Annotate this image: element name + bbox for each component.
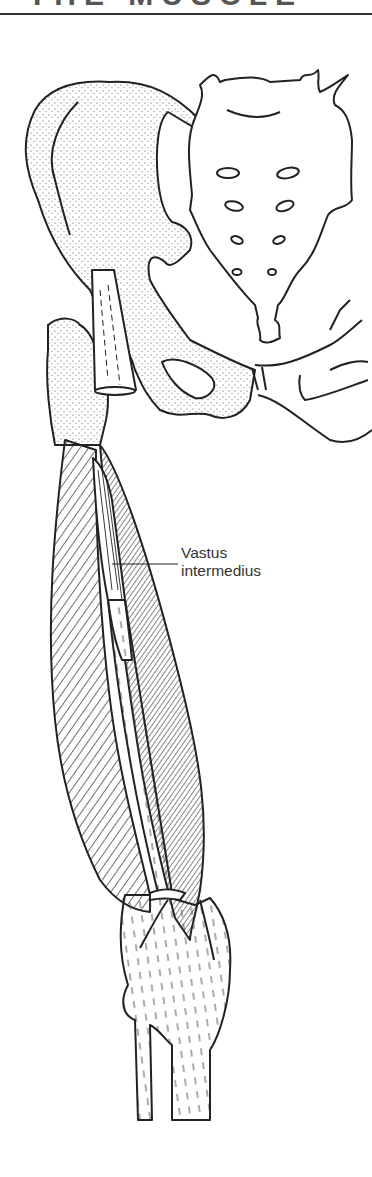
knee-patella — [121, 895, 231, 1120]
sacrum-bone — [189, 70, 352, 343]
anatomical-illustration — [0, 0, 372, 1177]
label-line-2: intermedius — [181, 562, 261, 580]
label-line-1: Vastus — [181, 544, 261, 562]
label-vastus-intermedius: Vastus intermedius — [181, 544, 261, 580]
